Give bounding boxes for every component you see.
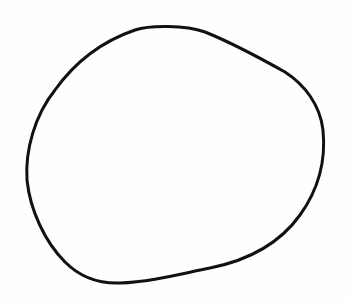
sketch-svg bbox=[0, 0, 349, 302]
drawing-canvas bbox=[0, 0, 349, 302]
hand-drawn-circle bbox=[27, 26, 324, 283]
